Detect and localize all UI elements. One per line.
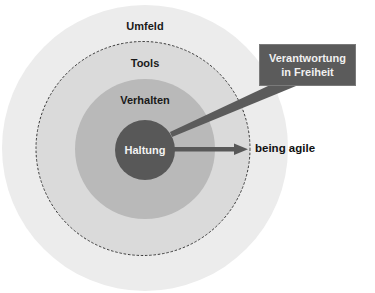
label-tools: Tools	[131, 57, 160, 69]
callout-line-1: Verantwortung	[269, 51, 346, 65]
label-being-agile: being agile	[255, 142, 315, 154]
label-haltung: Haltung	[125, 144, 166, 156]
callout-box: Verantwortung in Freiheit	[259, 44, 356, 86]
label-umfeld: Umfeld	[126, 20, 163, 32]
callout-line-2: in Freiheit	[281, 65, 334, 79]
label-verhalten: Verhalten	[120, 94, 170, 106]
arrow-shaft	[173, 147, 235, 152]
